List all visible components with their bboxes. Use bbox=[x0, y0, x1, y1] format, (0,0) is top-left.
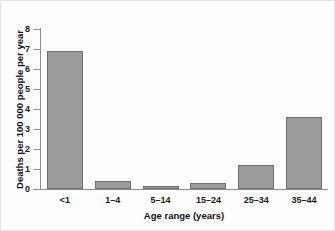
bar bbox=[95, 181, 131, 189]
x-axis-tick-label: <1 bbox=[41, 195, 89, 205]
bar bbox=[286, 117, 322, 189]
x-axis-title: Age range (years) bbox=[40, 210, 328, 221]
y-axis-tick bbox=[34, 129, 40, 130]
x-axis-line bbox=[33, 189, 328, 190]
y-axis-title: Deaths per 100 000 people per year bbox=[14, 27, 25, 193]
x-axis-tick-label: 1–4 bbox=[89, 195, 137, 205]
y-axis-tick bbox=[34, 109, 40, 110]
y-axis-tick bbox=[34, 49, 40, 50]
bar bbox=[190, 183, 226, 189]
bar-chart-figure: 012345678 Deaths per 100 000 people per … bbox=[0, 0, 335, 231]
y-axis-tick bbox=[34, 189, 40, 190]
x-axis-tick-label: 15–24 bbox=[185, 195, 233, 205]
x-axis-tick-label: 5–14 bbox=[137, 195, 185, 205]
y-axis-tick bbox=[34, 169, 40, 170]
x-axis-tick-label: 25–34 bbox=[232, 195, 280, 205]
bar bbox=[143, 186, 179, 189]
bar bbox=[238, 165, 274, 189]
bars-layer bbox=[41, 29, 328, 189]
bar bbox=[47, 51, 83, 189]
y-axis-tick bbox=[34, 69, 40, 70]
y-axis-tick bbox=[34, 89, 40, 90]
y-axis-tick bbox=[34, 29, 40, 30]
y-axis-tick bbox=[34, 149, 40, 150]
x-axis-tick-label: 35–44 bbox=[280, 195, 328, 205]
